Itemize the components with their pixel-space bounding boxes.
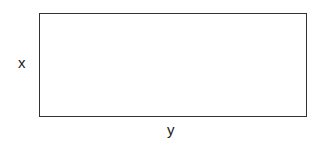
side-label-x: x — [18, 55, 26, 70]
rectangle-shape — [39, 13, 307, 117]
side-label-y: y — [167, 122, 175, 137]
